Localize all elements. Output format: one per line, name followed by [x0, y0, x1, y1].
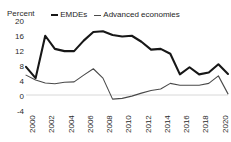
x-tick-label: 2000: [29, 115, 37, 133]
x-tick-label: 2006: [87, 115, 95, 133]
series-line-emdes: [26, 31, 228, 78]
x-tick-label: 2020: [222, 115, 230, 133]
x-tick-label: 2012: [145, 115, 153, 133]
x-tick-label: 2002: [48, 115, 56, 133]
x-tick-label: 2008: [106, 115, 114, 133]
x-tick-label: 2014: [164, 115, 172, 133]
x-tick-label: 2016: [183, 115, 191, 133]
x-tick-label: 2010: [125, 115, 133, 133]
line-chart: Percent 20 16 12 8 4 0 -4 EMDEs Advanced…: [0, 0, 231, 142]
x-tick-label: 2004: [68, 115, 76, 133]
x-tick-label: 2018: [202, 115, 210, 133]
